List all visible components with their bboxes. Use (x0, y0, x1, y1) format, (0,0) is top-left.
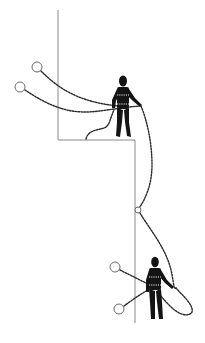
rope-upper-1 (41, 71, 118, 106)
anchor-ring-icon (32, 62, 42, 72)
anchor-ring-icon (114, 304, 124, 314)
rope-descent (139, 106, 152, 208)
rope-slack-ledge (86, 110, 114, 139)
anchor-ring-icon (110, 262, 120, 272)
wall-outline (58, 10, 135, 323)
belay-ring-icon (135, 207, 141, 213)
anchor-ring-icon (15, 82, 25, 92)
climbing-diagram (0, 0, 205, 343)
rope-lower-loop (158, 288, 192, 315)
